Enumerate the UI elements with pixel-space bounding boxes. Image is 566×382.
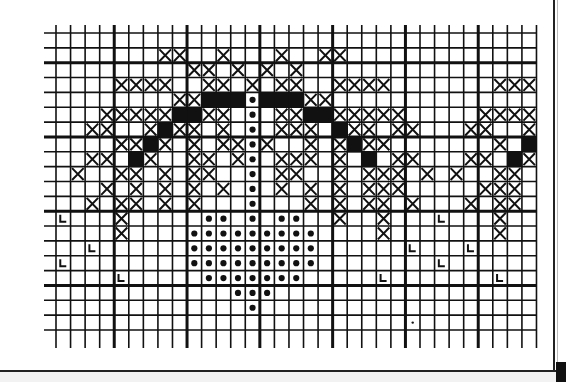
cross-stitch-icon — [334, 109, 346, 121]
cross-stitch-icon — [363, 183, 375, 195]
dot-stitch-icon — [293, 245, 299, 251]
cross-stitch-icon — [290, 168, 302, 180]
dot-stitch-icon — [249, 141, 255, 147]
cross-stitch-icon — [334, 183, 346, 195]
cross-stitch-icon — [218, 124, 230, 136]
cross-stitch-icon — [494, 183, 506, 195]
cross-stitch-icon — [407, 124, 419, 136]
cross-stitch-icon — [290, 109, 302, 121]
l-symbol-icon — [497, 274, 503, 281]
cross-stitch-icon — [363, 198, 375, 210]
cross-stitch-icon — [116, 168, 128, 180]
cross-stitch-icon — [145, 109, 157, 121]
dot-stitch-icon — [293, 260, 299, 266]
cross-stitch-icon — [101, 183, 113, 195]
cross-stitch-icon — [159, 49, 171, 61]
cross-stitch-icon — [509, 198, 521, 210]
solid-stitch-icon — [172, 107, 187, 122]
dot-stitch-icon — [191, 260, 197, 266]
dot-stitch-icon — [249, 171, 255, 177]
dot-stitch-icon — [293, 216, 299, 222]
cross-stitch-icon — [232, 64, 244, 76]
cross-stitch-icon — [494, 198, 506, 210]
cross-stitch-icon — [261, 138, 273, 150]
cross-stitch-icon — [174, 49, 186, 61]
page-bottom-strip — [0, 372, 556, 382]
solid-stitch-icon — [333, 122, 348, 137]
cross-stitch-icon — [232, 138, 244, 150]
cross-stitch-icon — [465, 198, 477, 210]
cross-stitch-icon — [407, 153, 419, 165]
cross-stitch-icon — [422, 168, 434, 180]
cross-stitch-icon — [130, 109, 142, 121]
cross-stitch-icon — [290, 64, 302, 76]
cross-stitch-icon — [203, 168, 215, 180]
cross-stitch-icon — [159, 168, 171, 180]
cross-stitch-icon — [159, 79, 171, 91]
cross-stitch-icon — [159, 138, 171, 150]
cross-stitch-icon — [174, 94, 186, 106]
cross-stitch-icon — [305, 183, 317, 195]
cross-stitch-icon — [159, 109, 171, 121]
dot-stitch-icon — [235, 290, 241, 296]
dot-stitch-icon — [264, 275, 270, 281]
cross-stitch-icon — [480, 183, 492, 195]
cross-stitch-icon — [189, 168, 201, 180]
cross-stitch-icon — [378, 138, 390, 150]
solid-stitch-icon — [129, 152, 144, 167]
solid-stitch-icon — [318, 107, 333, 122]
solid-stitch-icon — [274, 92, 289, 107]
cross-stitch-icon — [218, 138, 230, 150]
solid-stitch-icon — [522, 137, 537, 152]
cross-stitch-icon — [159, 183, 171, 195]
cross-stitch-icon — [290, 124, 302, 136]
dot-stitch-icon — [191, 245, 197, 251]
cross-stitch-icon — [334, 198, 346, 210]
frame-right-shadow — [557, 0, 558, 372]
cross-stitch-icon — [247, 79, 259, 91]
solid-stitch-icon — [362, 152, 377, 167]
dot-stitch-icon — [249, 245, 255, 251]
cross-stitch-icon — [320, 49, 332, 61]
dot-stitch-icon — [308, 230, 314, 236]
l-symbol-icon — [439, 215, 445, 222]
cross-stitch-icon — [145, 79, 157, 91]
cross-stitch-icon — [363, 124, 375, 136]
solid-stitch-icon — [143, 137, 158, 152]
cross-stitch-icon — [378, 168, 390, 180]
cross-stitch-icon — [480, 153, 492, 165]
cross-stitch-icon — [232, 153, 244, 165]
cross-stitch-icon — [305, 138, 317, 150]
dot-stitch-icon — [249, 275, 255, 281]
l-symbol-icon — [468, 244, 474, 251]
dot-stitch-icon — [279, 260, 285, 266]
dot-stitch-icon — [264, 260, 270, 266]
corner-block — [556, 362, 566, 382]
cross-stitch-icon — [494, 109, 506, 121]
dot-stitch-icon — [249, 260, 255, 266]
dot-stitch-icon — [206, 230, 212, 236]
cross-stitch-icon — [101, 153, 113, 165]
cross-stitch-icon — [407, 198, 419, 210]
stitch-symbols — [60, 49, 537, 323]
solid-stitch-icon — [158, 122, 173, 137]
cross-stitch-icon — [523, 109, 535, 121]
cross-stitch-icon — [218, 109, 230, 121]
cross-stitch-icon — [203, 109, 215, 121]
l-symbol-icon — [119, 274, 125, 281]
cross-stitch-icon — [87, 124, 99, 136]
cross-stitch-icon — [218, 79, 230, 91]
dot-stitch-icon — [279, 275, 285, 281]
cross-stitch-icon — [465, 124, 477, 136]
cross-stitch-icon — [130, 183, 142, 195]
dot-stitch-icon — [249, 126, 255, 132]
cross-stitch-icon — [523, 153, 535, 165]
cross-stitch-icon — [189, 183, 201, 195]
cross-stitch-icon — [130, 79, 142, 91]
dot-stitch-icon — [293, 275, 299, 281]
dot-stitch-icon — [293, 230, 299, 236]
cross-stitch-icon — [189, 153, 201, 165]
l-symbol-icon — [439, 259, 445, 266]
cross-stitch-chart — [0, 0, 566, 382]
cross-stitch-icon — [378, 79, 390, 91]
